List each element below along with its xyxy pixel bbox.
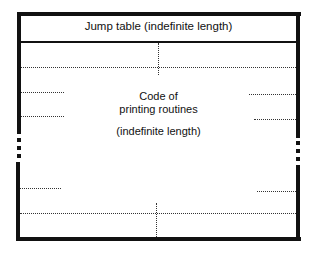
box-top-border — [18, 12, 301, 16]
right-partial-dotted-line — [257, 191, 296, 192]
left-partial-dotted-line — [21, 116, 64, 117]
right-break-dash — [296, 141, 300, 145]
code-label-line1: Code of — [20, 90, 297, 103]
box-right-border-lower — [296, 165, 300, 241]
code-label-line2: printing routines — [20, 103, 297, 116]
box-bottom-border — [16, 237, 301, 241]
top-vertical-dotted-line — [158, 43, 159, 75]
right-break-dash — [296, 157, 300, 161]
left-break-dash — [17, 146, 21, 150]
right-break-dash — [296, 149, 300, 153]
left-break-dash — [17, 154, 21, 158]
bottom-vertical-dotted-line — [156, 203, 157, 237]
jump-table-label: Jump table (indefinite length) — [20, 20, 297, 33]
bottom-full-dotted-line — [20, 213, 296, 214]
right-partial-dotted-line — [254, 119, 296, 120]
left-break-dash — [17, 138, 21, 142]
top-full-dotted-line — [21, 67, 296, 68]
box-left-border-lower — [16, 162, 20, 241]
left-partial-dotted-line — [20, 188, 61, 189]
code-length-label: (indefinite length) — [20, 125, 297, 138]
